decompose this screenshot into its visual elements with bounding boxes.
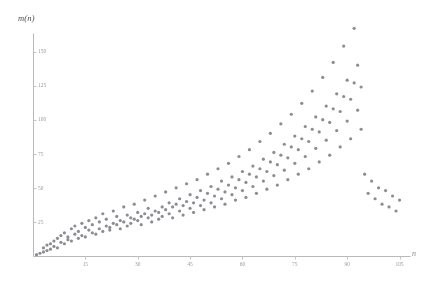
x-tick-label: 45 (180, 261, 200, 267)
y-tick-label: 125 (38, 82, 46, 88)
x-axis-label: n (412, 249, 416, 258)
x-tick-label: 60 (232, 261, 252, 267)
x-tick-label: 75 (285, 261, 305, 267)
y-tick-label: 75 (38, 151, 43, 157)
y-tick-label: 50 (38, 185, 43, 191)
x-tick-label: 30 (128, 261, 148, 267)
plot-canvas (0, 0, 442, 287)
x-tick-label: 90 (337, 261, 357, 267)
scatter-plot: m(n) n 255075100125150153045607590105 (0, 0, 442, 287)
y-tick-label: 25 (38, 219, 43, 225)
x-tick-label: 15 (75, 261, 95, 267)
y-axis-label: m(n) (18, 13, 35, 23)
y-tick-label: 150 (38, 48, 46, 54)
x-tick-label: 105 (390, 261, 410, 267)
y-tick-label: 100 (38, 116, 46, 122)
